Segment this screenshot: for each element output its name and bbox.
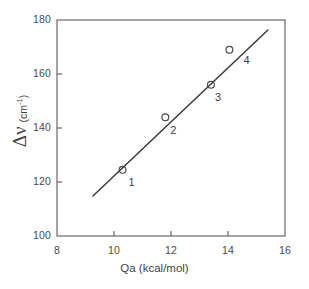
axis-ticks [57, 74, 228, 236]
x-axis-title: Qa (kcal/mol) [0, 262, 309, 274]
x-tick-label: 12 [151, 244, 191, 256]
y-axis-units-exponent: -1 [15, 98, 24, 105]
x-tick-label: 10 [94, 244, 134, 256]
data-point-label-4: 4 [243, 54, 249, 66]
x-tick-label: 8 [37, 244, 77, 256]
y-axis-title-units: (cm-1) [15, 95, 29, 123]
scatter-plot-figure: 100120140160180 810121416 1234 Qa (kcal/… [0, 0, 309, 289]
y-tick-label: 180 [11, 13, 51, 25]
y-axis-title: Δν (cm-1) [9, 41, 35, 201]
x-tick-label: 14 [208, 244, 248, 256]
y-axis-units-base: (cm [16, 105, 28, 123]
data-point-label-3: 3 [215, 91, 221, 103]
y-axis-units-tail: ) [16, 95, 28, 99]
data-point-marker [226, 46, 233, 53]
x-tick-label: 16 [265, 244, 305, 256]
data-point-label-2: 2 [170, 124, 176, 136]
data-point-marker [162, 114, 169, 121]
y-tick-label: 100 [11, 229, 51, 241]
y-axis-title-symbol: Δν [9, 126, 31, 147]
data-point-label-1: 1 [129, 176, 135, 188]
